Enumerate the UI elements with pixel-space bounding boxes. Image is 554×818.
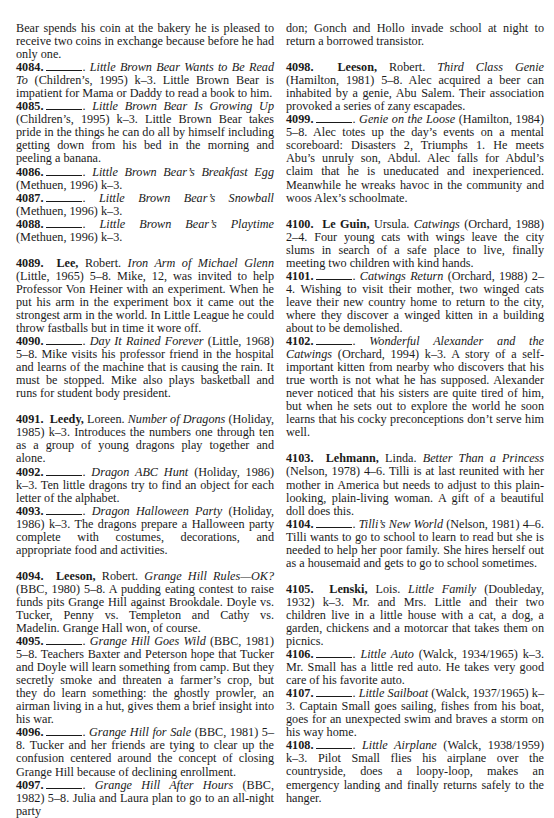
entry-text: Wishing to visit their mother, two winge… — [286, 282, 544, 335]
entry-author: Leeson, — [56, 569, 96, 583]
entry-number: 4087. — [16, 191, 43, 205]
entry-text: Four young cats with wings leave the cit… — [286, 230, 544, 270]
entry-title: Dragon ABC Hunt — [91, 465, 188, 479]
entry-author: Le Guin, — [322, 217, 369, 231]
entry-title: Better Than a Princess — [423, 451, 544, 465]
entry-number: 4086. — [16, 165, 43, 179]
entry-4095: 4095.. Grange Hill Goes Wild (BBC, 1981)… — [16, 635, 274, 726]
ditto-blank — [46, 192, 82, 202]
ditto-blank — [316, 518, 352, 528]
entry-continuation: don; Gonch and Hollo invade school at ni… — [286, 22, 544, 48]
ditto-blank — [46, 166, 82, 176]
entry-number: 4088. — [16, 217, 43, 231]
entry-author-given: Loreen. — [87, 412, 125, 426]
entry-number: 4105. — [286, 582, 313, 596]
entry-author: Lenski, — [329, 582, 367, 596]
entry-title: Grange Hill Goes Wild — [90, 634, 206, 648]
entry-publisher: (Nelson, 1978) 4–6. — [286, 464, 385, 478]
entry-author: Lee, — [56, 256, 78, 270]
entry-number: 4106. — [286, 647, 313, 661]
entry-title: Tilli’s New World — [359, 517, 443, 531]
ditto-blank — [316, 648, 352, 658]
entry-text: Ten little dragons try to find an object… — [16, 478, 274, 505]
entry-number: 4095. — [16, 634, 43, 648]
ditto-blank — [316, 687, 352, 697]
entry-4100: 4100. Le Guin, Ursula. Catwings (Orchard… — [286, 218, 544, 270]
entry-number: 4089. — [16, 256, 43, 270]
entry-text: don; Gonch and Hollo invade school at ni… — [286, 21, 544, 48]
entry-title: Dragon Halloween Party — [92, 504, 222, 518]
entry-author-given: Lois. — [375, 582, 400, 596]
entry-title: Genie on the Loose — [359, 112, 455, 126]
entry-number: 4099. — [286, 112, 313, 126]
entry-publisher: (Hamilton, 1981) 5–8. — [286, 73, 402, 87]
entry-number: 4100. — [286, 217, 313, 231]
entry-4090: 4090.. Day It Rained Forever (Little, 19… — [16, 335, 274, 400]
entry-4098: 4098. Leeson, Robert. Third Class Genie … — [286, 61, 544, 113]
entry-4088: 4088.. Little Brown Bear’s Playtime (Met… — [16, 218, 274, 244]
entry-title: Little Family — [408, 582, 476, 596]
entry-text: Mr. Small has a little red auto. He take… — [286, 660, 544, 687]
entry-publisher: (Methuen, 1996) k–3. — [16, 204, 122, 218]
entry-text: Tilli wants to go to school to learn to … — [286, 530, 544, 570]
entry-4089: 4089. Lee, Robert. Iron Arm of Michael G… — [16, 257, 274, 335]
ditto-blank — [46, 505, 82, 515]
ditto-blank — [46, 335, 82, 345]
entry-4108: 4108.. Little Airplane (Walck, 1938/1959… — [286, 739, 544, 804]
ditto-blank — [46, 466, 82, 476]
entry-author-given: Robert. — [85, 256, 121, 270]
entry-text: A story of a self-important kitten from … — [286, 347, 544, 439]
entry-publisher: (Nelson, 1981) 4–6. — [446, 517, 544, 531]
ditto-blank — [316, 270, 352, 280]
right-column: don; Gonch and Hollo invade school at ni… — [286, 22, 544, 818]
ditto-blank — [46, 218, 82, 228]
ditto-blank — [46, 61, 82, 71]
entry-title: Little Brown Bear’s Playtime — [99, 217, 274, 231]
entry-title: Iron Arm of Michael Glenn — [128, 256, 274, 270]
entry-title: Grange Hill Rules—OK? — [144, 569, 274, 583]
entry-4099: 4099.. Genie on the Loose (Hamilton, 198… — [286, 113, 544, 204]
entry-4096: 4096.. Grange Hill for Sale (BBC, 1981) … — [16, 726, 274, 778]
entry-title: Catwings Return — [360, 269, 444, 283]
entry-title: Grange Hill After Hours — [95, 778, 234, 792]
entry-author: Leedy, — [50, 412, 84, 426]
entry-publisher: (Methuen, 1996) k–3. — [16, 230, 122, 244]
left-column: Bear spends his coin at the bakery he is… — [16, 22, 274, 818]
entry-publisher: (Methuen, 1996) k–3. — [16, 178, 122, 192]
entry-title: Day It Rained Forever — [90, 334, 204, 348]
entry-title: Third Class Genie — [437, 60, 544, 74]
entry-4103: 4103. Lehmann, Linda. Better Than a Prin… — [286, 452, 544, 517]
entry-4092: 4092.. Dragon ABC Hunt (Holiday, 1986) k… — [16, 466, 274, 505]
entry-text: Pilot Small flies his airplane over the … — [286, 751, 544, 804]
entry-text: Tucker and her friends are tying to clea… — [16, 738, 274, 778]
entry-number: 4097. — [16, 778, 43, 792]
entry-publisher: (Children’s, 1995) k–3. — [16, 112, 138, 126]
entry-title: Little Auto — [360, 647, 413, 661]
entry-4086: 4086.. Little Brown Bear’s Breakfast Egg… — [16, 166, 274, 192]
entry-publisher: (Orchard, 1994) k–3. — [338, 347, 446, 361]
entry-4106: 4106.. Little Auto (Walck, 1934/1965) k–… — [286, 648, 544, 687]
entry-author-given: Linda. — [385, 451, 416, 465]
entry-author: Lehmann, — [326, 451, 379, 465]
entry-4094: 4094. Leeson, Robert. Grange Hill Rules—… — [16, 570, 274, 635]
entry-text: Teachers Baxter and Peterson hope that T… — [16, 647, 274, 726]
entry-text: Bear spends his coin at the bakery he is… — [16, 21, 274, 61]
entry-text: Alec totes up the day’s events on a ment… — [286, 125, 544, 204]
entry-number: 4094. — [16, 569, 43, 583]
entry-publisher: (Children’s, 1995) k–3. — [35, 73, 156, 87]
entry-title: Little Sailboat — [359, 686, 429, 700]
entry-author-given: Robert. — [102, 569, 138, 583]
entry-4101: 4101.. Catwings Return (Orchard, 1988) 2… — [286, 270, 544, 335]
entry-text: Captain Small goes sailing, fishes from … — [286, 699, 544, 739]
entry-4097: 4097.. Grange Hill After Hours (BBC, 198… — [16, 779, 274, 818]
ditto-blank — [316, 739, 352, 749]
entry-number: 4101. — [286, 269, 313, 283]
entry-title: Number of Dragons — [128, 412, 226, 426]
entry-publisher: (BBC, 1980) 5–8. — [16, 582, 105, 596]
entry-4087: 4087.. Little Brown Bear’s Snowball (Met… — [16, 192, 274, 218]
entry-publisher: (Walck, 1934/1965) k–3. — [419, 647, 544, 661]
ditto-blank — [46, 100, 82, 110]
entry-4093: 4093.. Dragon Halloween Party (Holiday, … — [16, 505, 274, 557]
entry-4085: 4085.. Little Brown Bear Is Growing Up (… — [16, 100, 274, 165]
entry-number: 4084. — [16, 60, 43, 74]
